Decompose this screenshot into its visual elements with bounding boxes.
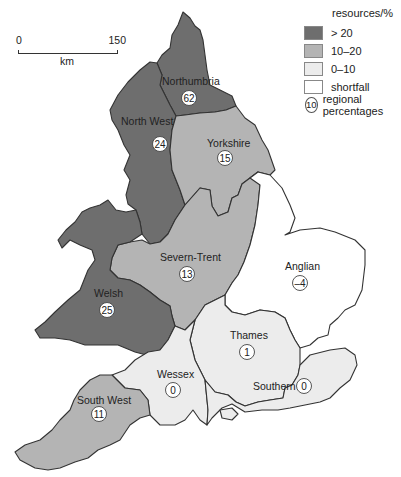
label-welsh: Welsh	[94, 287, 123, 299]
legend-item-gt20: > 20	[304, 24, 401, 41]
isle-of-wight	[220, 408, 238, 420]
label-yorkshire: Yorkshire	[207, 137, 251, 149]
value-anglian: –4	[294, 278, 306, 289]
scale-line	[18, 50, 118, 54]
legend-label: regional percentages	[323, 93, 401, 117]
legend-label: 0–10	[331, 63, 355, 75]
value-thames: 1	[244, 347, 250, 358]
label-south-west: South West	[77, 394, 131, 406]
value-wessex: 0	[170, 385, 176, 396]
region-south-west[interactable]	[15, 375, 150, 470]
legend-label: 10–20	[331, 45, 362, 57]
value-northumbria: 62	[183, 93, 195, 104]
value-welsh: 25	[101, 305, 113, 316]
label-north-west: North West	[121, 115, 173, 127]
legend-item-percentages: 10 regional percentages	[304, 96, 401, 113]
label-northumbria: Northumbria	[162, 75, 220, 87]
label-severn-trent: Severn-Trent	[160, 251, 221, 263]
legend-item-10-20: 10–20	[304, 42, 401, 59]
legend-swatch	[304, 80, 323, 94]
legend-circle-example: 10	[305, 97, 318, 113]
label-wessex: Wessex	[157, 368, 195, 380]
scale-start: 0	[16, 34, 22, 46]
legend-swatch	[304, 62, 323, 76]
label-thames: Thames	[230, 329, 268, 341]
value-severn-trent: 13	[181, 269, 193, 280]
value-yorkshire: 15	[219, 153, 231, 164]
value-southern: 0	[301, 381, 307, 392]
value-north-west: 24	[154, 139, 166, 150]
legend-label: shortfall	[331, 81, 370, 93]
legend-swatch	[304, 44, 323, 58]
label-southern: Southern	[253, 380, 296, 392]
legend-label: > 20	[331, 27, 353, 39]
legend-title: resources/%	[304, 6, 401, 20]
label-anglian: Anglian	[285, 260, 320, 272]
legend-item-0-10: 0–10	[304, 60, 401, 77]
scale-end: 150	[108, 34, 126, 46]
legend-swatch	[304, 26, 323, 40]
scale-bar: 0 150 km	[16, 34, 126, 74]
scale-unit: km	[60, 55, 74, 67]
value-south-west: 11	[94, 409, 105, 420]
legend: resources/% > 20 10–20 0–10 shortfall 10…	[304, 6, 401, 114]
